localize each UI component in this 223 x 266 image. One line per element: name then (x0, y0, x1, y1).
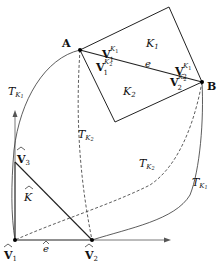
label-e: e (145, 58, 151, 69)
label-v1-k2: V1K2 (95, 58, 112, 77)
label-v2hat: V2 (84, 249, 98, 263)
hat-khat-icon (25, 186, 33, 189)
map-curve-tk2-right (15, 82, 202, 240)
point-a (78, 48, 82, 52)
map-curve-tk2-mid (78, 50, 92, 240)
label-ehat: e (43, 243, 49, 254)
label-a: A (61, 37, 71, 50)
hat-v3hat-icon (17, 147, 25, 150)
point-v1hat (13, 238, 17, 242)
hat-v1hat-icon (4, 244, 12, 247)
map-curve-tk1-left (12, 50, 80, 240)
label-v3hat: V3 (16, 153, 30, 167)
diagram-canvas: A B K1 K2 e V1K1 V1K2 V2K1 V2K2 TK1 TK2 … (0, 0, 223, 266)
x-axis-arrow-icon (164, 238, 171, 243)
label-tk1-left: TK1 (8, 85, 24, 99)
label-tk1-right: TK1 (192, 176, 208, 190)
map-curve-tk1-right (92, 82, 203, 240)
label-tk2-mid: TK2 (78, 128, 94, 142)
label-b: B (207, 80, 216, 93)
label-khat: K (23, 191, 33, 204)
label-v1hat: V1 (3, 249, 17, 263)
label-tk2-right: TK2 (139, 157, 155, 171)
y-axis-arrow-icon (13, 110, 18, 117)
label-k2: K2 (122, 85, 136, 99)
label-k1: K1 (145, 37, 159, 51)
label-v2-k2: V2K2 (169, 73, 186, 92)
point-v2hat (90, 238, 94, 242)
hat-v2hat-icon (85, 244, 93, 247)
point-b (200, 80, 204, 84)
